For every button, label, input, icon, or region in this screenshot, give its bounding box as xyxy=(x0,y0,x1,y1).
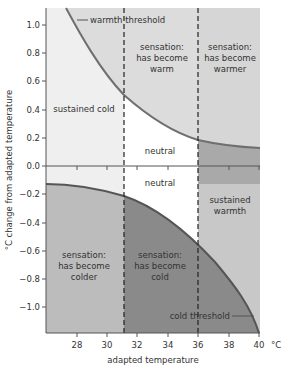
svg-text:0.6: 0.6 xyxy=(26,76,40,86)
svg-text:0.2: 0.2 xyxy=(26,133,40,143)
x-ticks xyxy=(77,333,259,337)
svg-text:sensation:: sensation: xyxy=(138,250,182,260)
region-has-become-warmer xyxy=(198,8,260,148)
svg-text:30: 30 xyxy=(102,340,113,350)
svg-text:has become: has become xyxy=(204,53,256,63)
svg-text:warmth: warmth xyxy=(214,206,247,216)
svg-text:40: 40 xyxy=(254,340,265,350)
x-axis-title: adapted temperature xyxy=(107,355,198,365)
svg-text:−0.8: −0.8 xyxy=(19,274,40,284)
svg-text:neutral: neutral xyxy=(145,178,175,188)
svg-text:1.0: 1.0 xyxy=(26,20,40,30)
svg-text:32: 32 xyxy=(132,340,143,350)
y-axis-title: °C change from adapted temperature xyxy=(4,90,14,251)
svg-text:cold: cold xyxy=(151,272,169,282)
svg-text:0.4: 0.4 xyxy=(26,105,40,115)
svg-text:0.8: 0.8 xyxy=(26,48,40,58)
svg-text:sensation:: sensation: xyxy=(62,250,106,260)
svg-text:neutral: neutral xyxy=(145,146,175,156)
svg-text:has become: has become xyxy=(134,261,186,271)
threshold-chart: 1.0 0.8 0.6 0.4 0.2 0.0 −0.2 −0.4 −0.6 −… xyxy=(0,0,295,374)
svg-text:has become: has become xyxy=(136,53,188,63)
svg-text:sustained: sustained xyxy=(209,195,250,205)
x-unit-label: °C xyxy=(271,340,281,350)
y-ticks xyxy=(42,25,46,307)
svg-text:sensation:: sensation: xyxy=(140,42,184,52)
svg-text:−0.2: −0.2 xyxy=(19,189,40,199)
svg-text:warm: warm xyxy=(150,64,174,74)
svg-text:warmer: warmer xyxy=(214,64,247,74)
svg-text:has become: has become xyxy=(58,261,110,271)
svg-text:sensation:: sensation: xyxy=(208,42,252,52)
svg-text:0.0: 0.0 xyxy=(26,161,40,171)
svg-text:colder: colder xyxy=(71,272,98,282)
svg-text:−0.6: −0.6 xyxy=(19,246,40,256)
y-tick-labels: 1.0 0.8 0.6 0.4 0.2 0.0 −0.2 −0.4 −0.6 −… xyxy=(19,20,40,312)
svg-text:−0.4: −0.4 xyxy=(19,218,40,228)
svg-text:sustained cold: sustained cold xyxy=(53,104,115,114)
warmth-threshold-label: warmth threshold xyxy=(90,15,165,25)
svg-text:−1.0: −1.0 xyxy=(19,302,40,312)
x-tick-labels: 28 30 32 34 36 38 40 xyxy=(72,340,265,350)
svg-text:28: 28 xyxy=(72,340,83,350)
svg-text:36: 36 xyxy=(193,340,204,350)
cold-threshold-label: cold threshold xyxy=(170,311,230,321)
svg-text:38: 38 xyxy=(224,340,235,350)
svg-text:34: 34 xyxy=(163,340,174,350)
